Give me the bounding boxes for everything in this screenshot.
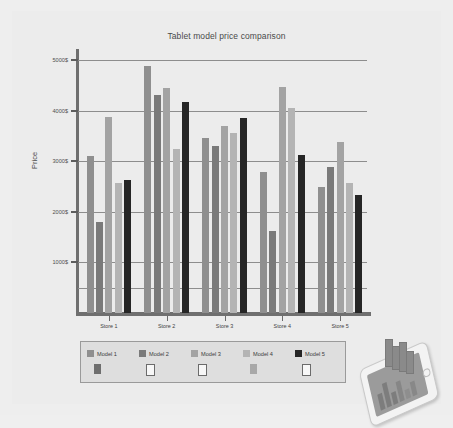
y-tick-label: 1000$ (52, 259, 68, 265)
bar (212, 146, 219, 313)
x-tick-mark (109, 316, 110, 321)
legend-secondary-mark-icon (250, 364, 257, 374)
bar (87, 156, 94, 313)
legend-label: Model 4 (253, 351, 273, 357)
gridline (78, 60, 367, 61)
bar (327, 167, 334, 313)
y-tick-mark (71, 160, 78, 162)
legend-swatch-icon (295, 350, 302, 357)
bar (288, 108, 295, 313)
y-tick-mark (71, 261, 78, 263)
bar (221, 126, 228, 313)
device-chart-bar-3d (406, 351, 414, 374)
legend-swatch-icon (243, 350, 250, 357)
x-axis-label: Store 1 (89, 323, 129, 329)
bar (346, 183, 353, 313)
tablet-illustration (352, 337, 453, 423)
bar (173, 149, 180, 313)
chart-legend: Model 1Model 2Model 3Model 4Model 5 (80, 341, 346, 383)
legend-entry[interactable]: Model 5 (295, 350, 325, 357)
legend-label: Model 1 (97, 351, 117, 357)
x-axis-label: Store 2 (147, 323, 187, 329)
bar (279, 87, 286, 313)
bar (144, 66, 151, 313)
y-tick-label: 3000$ (52, 158, 68, 164)
legend-secondary-mark-icon (198, 364, 207, 376)
bar (163, 88, 170, 313)
legend-entry[interactable]: Model 4 (243, 350, 273, 357)
bar (202, 138, 209, 313)
bar (269, 231, 276, 313)
y-tick-mark (71, 211, 78, 213)
legend-entry[interactable]: Model 3 (191, 350, 221, 357)
bar (230, 133, 237, 313)
y-tick-mark (71, 59, 78, 61)
legend-entry[interactable]: Model 1 (87, 350, 117, 357)
x-tick-mark (282, 316, 283, 321)
bar (298, 155, 305, 313)
y-tick-label: 5000$ (52, 57, 68, 63)
y-axis-title: Price (30, 152, 39, 169)
legend-label: Model 2 (149, 351, 169, 357)
x-axis-label: Store 4 (262, 323, 302, 329)
legend-label: Model 3 (201, 351, 221, 357)
chart-figure: Tablet model price comparison Price 1000… (12, 11, 441, 404)
legend-secondary-mark-icon (146, 364, 155, 376)
bar (105, 117, 112, 313)
legend-swatch-icon (139, 350, 146, 357)
bar (355, 195, 362, 313)
bar (115, 183, 122, 313)
legend-swatch-icon (87, 350, 94, 357)
gridline (78, 111, 367, 112)
y-tick-label: 4000$ (52, 108, 68, 114)
x-axis-label: Store 5 (320, 323, 360, 329)
legend-swatch-icon (191, 350, 198, 357)
bar (96, 222, 103, 313)
bar (260, 172, 267, 313)
bar (318, 187, 325, 314)
bar (182, 102, 189, 313)
y-tick-label: 2000$ (52, 209, 68, 215)
x-tick-mark (340, 316, 341, 321)
bar (154, 95, 161, 313)
legend-secondary-mark-icon (94, 364, 101, 374)
legend-label: Model 5 (305, 351, 325, 357)
y-tick-mark (71, 110, 78, 112)
x-tick-mark (225, 316, 226, 321)
x-axis-label: Store 3 (205, 323, 245, 329)
plot-area (78, 51, 367, 313)
device-chart-bar (410, 380, 418, 396)
legend-secondary-mark-icon (302, 364, 311, 376)
legend-entry[interactable]: Model 2 (139, 350, 169, 357)
x-tick-mark (167, 316, 168, 321)
chart-title: Tablet model price comparison (12, 31, 441, 41)
bar (124, 180, 131, 313)
bar (240, 118, 247, 313)
device-chart-bar (404, 388, 411, 399)
bar (337, 142, 344, 313)
